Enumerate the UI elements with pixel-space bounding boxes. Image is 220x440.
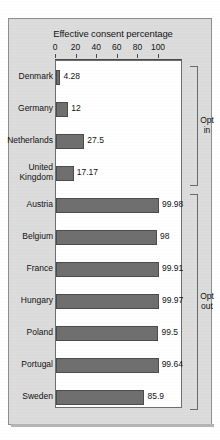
category-label: Netherlands [0, 136, 53, 146]
x-tick-label: 100 [151, 42, 165, 52]
x-tick-label: 20 [71, 42, 80, 52]
x-tick-label: 60 [112, 42, 121, 52]
x-tick-label: 40 [91, 42, 100, 52]
bar-row: Poland99.5 [0, 318, 220, 350]
bar-value-label: 85.9 [147, 391, 164, 401]
bar-rows: Denmark4.28Germany12Netherlands27.5Unite… [0, 60, 220, 408]
bar-row: Austria99.98 [0, 190, 220, 222]
group-bracket-label: Opt out [196, 292, 218, 311]
category-label: Germany [0, 104, 53, 114]
bar-row: United Kingdom17.17 [0, 158, 220, 190]
bar-value-label: 99.91 [162, 263, 183, 273]
bar-row: France99.91 [0, 254, 220, 286]
x-axis-ticks: 020406080100 [30, 42, 190, 54]
bar [56, 390, 144, 405]
bar-value-label: 4.28 [63, 71, 80, 81]
x-tick-mark [96, 54, 97, 58]
chart-figure: Effective consent percentage 02040608010… [0, 0, 220, 440]
x-tick-mark [117, 54, 118, 58]
bar-value-label: 99.5 [161, 327, 178, 337]
bar-row: Sweden85.9 [0, 382, 220, 414]
category-label: Portugal [0, 360, 53, 370]
category-label: Sweden [0, 392, 53, 402]
bar-value-label: 98 [160, 231, 169, 241]
bar-row: Germany12 [0, 94, 220, 126]
category-label: Denmark [0, 72, 53, 82]
bar-row: Netherlands27.5 [0, 126, 220, 158]
bar [56, 70, 60, 85]
category-label: Austria [0, 200, 53, 210]
category-label: Hungary [0, 296, 53, 306]
bar-value-label: 99.97 [162, 295, 183, 305]
category-label: United Kingdom [0, 163, 53, 182]
x-tick-mark [55, 54, 56, 58]
bar-value-label: 12 [71, 103, 80, 113]
bar-row: Hungary99.97 [0, 286, 220, 318]
bar [56, 262, 159, 277]
bar-row: Denmark4.28 [0, 62, 220, 94]
bar [56, 102, 68, 117]
bar-row: Portugal99.64 [0, 350, 220, 382]
panel-shadow [11, 424, 214, 427]
bar [56, 134, 84, 149]
x-tick-label: 0 [53, 42, 58, 52]
category-label: Poland [0, 328, 53, 338]
category-label: France [0, 264, 53, 274]
bar [56, 294, 159, 309]
bar [56, 326, 158, 341]
bar-value-label: 99.64 [162, 359, 183, 369]
x-tick-label: 80 [133, 42, 142, 52]
bar [56, 230, 157, 245]
bar [56, 166, 74, 181]
bar-value-label: 17.17 [77, 167, 98, 177]
x-tick-mark [158, 54, 159, 58]
bar [56, 358, 159, 373]
bar-value-label: 99.98 [162, 199, 183, 209]
bar-value-label: 27.5 [87, 135, 104, 145]
chart-title: Effective consent percentage [38, 28, 188, 39]
x-tick-mark [137, 54, 138, 58]
bar-row: Belgium98 [0, 222, 220, 254]
bar [56, 198, 159, 213]
x-tick-mark [76, 54, 77, 58]
group-bracket-label: Opt in [196, 116, 218, 135]
category-label: Belgium [0, 232, 53, 242]
